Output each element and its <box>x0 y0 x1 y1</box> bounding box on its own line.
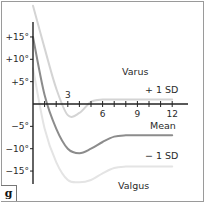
x-tick-label: 6 <box>100 109 106 119</box>
panel-label-box: g <box>1 185 17 201</box>
valgus-label: Valgus <box>118 180 149 191</box>
plus-1sd-label: + 1 SD <box>145 84 178 95</box>
y-tick-label: −5° <box>11 121 29 131</box>
minus-1sd-label: − 1 SD <box>145 150 178 161</box>
y-tick-label: +15° <box>6 32 30 42</box>
growth-angle-chart: 36912+15°+10°+5°−5°−10°−15° Varus Valgus… <box>0 0 205 203</box>
mean-label: Mean <box>150 120 176 131</box>
curve-mean <box>33 37 172 153</box>
curve-1-sd <box>33 6 172 117</box>
y-tick-label: +10° <box>6 54 30 64</box>
x-tick-label: 12 <box>166 109 177 119</box>
y-tick-label: +5° <box>11 77 29 87</box>
x-tick-label: 9 <box>135 109 141 119</box>
varus-label: Varus <box>122 66 149 77</box>
labels-layer: Varus Valgus + 1 SD Mean − 1 SD <box>118 66 178 191</box>
x-tick-label: 3 <box>65 90 71 100</box>
y-tick-label: −15° <box>6 166 30 176</box>
y-tick-label: −10° <box>6 144 30 154</box>
panel-label: g <box>5 187 13 200</box>
